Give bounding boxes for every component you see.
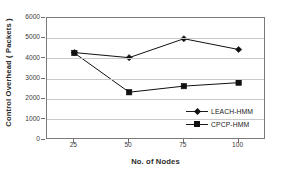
- chart-legend: LEACH-HMM CPCP-HMM: [186, 105, 266, 131]
- y-axis-tick-mark: [41, 98, 45, 99]
- y-axis-tick-label: 0: [36, 136, 40, 143]
- y-axis-tick-mark: [41, 118, 45, 119]
- y-axis-tick-label: 2000: [25, 95, 40, 102]
- legend-label-cpcp-hmm: CPCP-HMM: [208, 121, 249, 128]
- data-point-marker: [236, 80, 241, 85]
- x-axis-tick-mark: [183, 139, 184, 143]
- y-axis-tick-mark: [41, 17, 45, 18]
- legend-item-cpcp-hmm: CPCP-HMM: [186, 118, 266, 131]
- legend-marker-square-icon: [186, 120, 208, 129]
- legend-label-leach-hmm: LEACH-HMM: [208, 108, 253, 115]
- x-axis-tick-mark: [128, 139, 129, 143]
- y-axis-title: Control Overhead ( Packets ): [0, 0, 16, 145]
- y-axis-tick-mark: [41, 78, 45, 79]
- y-axis-tick-mark: [41, 57, 45, 58]
- x-axis-tick-mark: [73, 139, 74, 143]
- gridline: [47, 38, 264, 39]
- legend-item-leach-hmm: LEACH-HMM: [186, 105, 266, 118]
- chart-figure: Control Overhead ( Packets ) 60005000400…: [0, 0, 282, 174]
- data-point-marker: [126, 90, 131, 95]
- y-axis-tick-mark: [41, 139, 45, 140]
- y-axis-title-text: Control Overhead ( Packets ): [4, 18, 13, 126]
- y-axis-tick-mark: [41, 37, 45, 38]
- x-axis-title: No. of Nodes: [46, 157, 265, 166]
- y-axis-tick-label: 4000: [25, 54, 40, 61]
- x-axis-tick-labels: 255075100: [46, 142, 265, 154]
- legend-marker-diamond-icon: [186, 107, 208, 116]
- gridline: [47, 79, 264, 80]
- data-point-marker: [181, 83, 186, 88]
- series-line-leach-hmm: [74, 39, 238, 58]
- y-axis-tick-label: 6000: [25, 14, 40, 21]
- gridline: [47, 99, 264, 100]
- y-axis-tick-label: 3000: [25, 75, 40, 82]
- x-axis-tick-mark: [238, 139, 239, 143]
- y-axis-tick-label: 5000: [25, 34, 40, 41]
- data-point-marker: [72, 50, 77, 55]
- y-axis-tick-label: 1000: [25, 115, 40, 122]
- data-point-marker: [236, 46, 242, 52]
- gridline: [47, 58, 264, 59]
- y-axis-tick-labels: 6000500040003000200010000: [16, 17, 43, 139]
